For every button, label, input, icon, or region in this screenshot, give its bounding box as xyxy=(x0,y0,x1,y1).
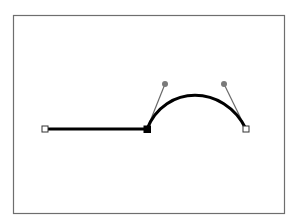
anchor-start[interactable] xyxy=(42,126,48,132)
anchor-end[interactable] xyxy=(243,126,249,132)
anchor-middle-selected[interactable] xyxy=(144,126,151,133)
bezier-canvas[interactable] xyxy=(0,0,297,218)
canvas-frame xyxy=(14,16,285,214)
control-point-1[interactable] xyxy=(162,81,168,87)
control-point-2[interactable] xyxy=(221,81,227,87)
